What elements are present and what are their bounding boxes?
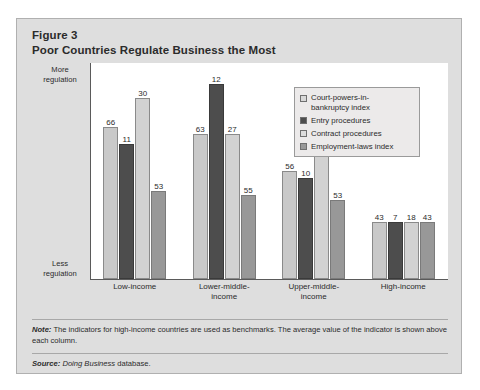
bar-value-label: 43 bbox=[423, 213, 432, 222]
bar-slot: 66 bbox=[103, 63, 118, 279]
bar-value-label: 53 bbox=[154, 182, 163, 191]
legend-item[interactable]: Employment-laws index bbox=[300, 142, 413, 152]
bar[interactable]: 56 bbox=[282, 171, 297, 279]
category-label: Low-income bbox=[90, 282, 180, 302]
bar[interactable]: 11 bbox=[119, 144, 134, 279]
footer-divider-top bbox=[32, 319, 448, 320]
legend-item[interactable]: Entry procedures bbox=[300, 116, 413, 126]
axis-caption-less-line2: regulation bbox=[32, 269, 88, 279]
bar-slot: 43 bbox=[420, 63, 435, 279]
bar-value-label: 27 bbox=[228, 125, 237, 134]
bar-value-label: 63 bbox=[196, 125, 205, 134]
bar-slot: 12 bbox=[209, 63, 224, 279]
bar-value-label: 11 bbox=[123, 135, 131, 144]
category-label: Lower-middle-income bbox=[180, 282, 270, 302]
legend-item[interactable]: Court-powers-in-bankruptcy index bbox=[300, 93, 413, 112]
legend-label: Entry procedures bbox=[311, 116, 370, 126]
legend-item[interactable]: Contract procedures bbox=[300, 129, 413, 139]
bar-value-label: 55 bbox=[244, 186, 253, 195]
legend-label: Court-powers-in-bankruptcy index bbox=[311, 93, 370, 112]
legend-label-line: Employment-laws index bbox=[311, 142, 393, 152]
bar-value-label: 10 bbox=[301, 169, 310, 178]
axis-caption-more-line1: More bbox=[32, 65, 88, 75]
category-label-line: Low-income bbox=[90, 282, 180, 292]
footer-divider-bottom bbox=[32, 353, 448, 354]
note-text: The indicators for high-income countries… bbox=[32, 325, 447, 345]
bar-value-label: 18 bbox=[407, 213, 416, 222]
figure-note: Note: The indicators for high-income cou… bbox=[32, 325, 448, 346]
bar[interactable]: 63 bbox=[193, 134, 208, 279]
bar-slot: 53 bbox=[151, 63, 166, 279]
figure-source: Source: Doing Business database. bbox=[32, 359, 448, 370]
category-label-line: High-income bbox=[359, 282, 449, 292]
bar[interactable]: 43 bbox=[372, 222, 387, 279]
bar-value-label: 12 bbox=[212, 75, 221, 84]
figure-panel: Figure 3 Poor Countries Regulate Busines… bbox=[16, 18, 462, 374]
bar-value-label: 7 bbox=[393, 213, 397, 222]
bar[interactable]: 30 bbox=[135, 98, 150, 279]
note-lead: Note: bbox=[32, 325, 51, 334]
legend-label: Contract procedures bbox=[311, 129, 382, 139]
bar-value-label: 30 bbox=[138, 89, 147, 98]
bar-group: 66113053 bbox=[90, 63, 180, 279]
legend-label-line: bankruptcy index bbox=[311, 103, 370, 113]
bar-slot: 11 bbox=[119, 63, 134, 279]
bar-slot: 27 bbox=[225, 63, 240, 279]
bar-group: 63122755 bbox=[180, 63, 270, 279]
bar-value-label: 43 bbox=[375, 213, 384, 222]
axis-caption-less: Less regulation bbox=[32, 259, 88, 278]
legend-swatch-icon bbox=[300, 143, 307, 150]
legend-label-line: Court-powers-in- bbox=[311, 93, 370, 103]
legend-swatch-icon bbox=[300, 117, 307, 124]
bar-slot: 55 bbox=[241, 63, 256, 279]
bar[interactable]: 10 bbox=[298, 178, 313, 279]
chart-region: More regulation Less regulation 66113053… bbox=[32, 63, 448, 311]
x-axis-line bbox=[90, 279, 448, 280]
title-block: Figure 3 Poor Countries Regulate Busines… bbox=[32, 28, 442, 58]
legend-swatch-icon bbox=[300, 130, 307, 137]
bar[interactable]: 18 bbox=[404, 222, 419, 279]
legend-label-line: Contract procedures bbox=[311, 129, 382, 139]
bar[interactable]: 53 bbox=[151, 191, 166, 279]
legend-label-line: Entry procedures bbox=[311, 116, 370, 126]
figure-label: Figure 3 bbox=[32, 28, 442, 43]
bar-slot: 63 bbox=[193, 63, 208, 279]
category-label-line: income bbox=[269, 292, 359, 302]
category-label-line: Lower-middle- bbox=[180, 282, 270, 292]
bar[interactable]: 53 bbox=[330, 200, 345, 279]
bar[interactable]: 27 bbox=[225, 134, 240, 279]
legend-label: Employment-laws index bbox=[311, 142, 393, 152]
bar[interactable]: 55 bbox=[241, 195, 256, 279]
source-lead: Source: bbox=[32, 359, 60, 368]
bar[interactable]: 66 bbox=[103, 127, 118, 279]
axis-caption-more: More regulation bbox=[32, 65, 88, 84]
bar-slot: 30 bbox=[135, 63, 150, 279]
category-label: Upper-middle-income bbox=[269, 282, 359, 302]
source-publication: Doing Business bbox=[60, 359, 115, 368]
legend-swatch-icon bbox=[300, 95, 307, 102]
bar[interactable]: 12 bbox=[209, 84, 224, 279]
category-label-line: income bbox=[180, 292, 270, 302]
category-labels: Low-incomeLower-middle-incomeUpper-middl… bbox=[90, 282, 448, 302]
bar[interactable]: 43 bbox=[420, 222, 435, 279]
axis-caption-more-line2: regulation bbox=[32, 75, 88, 85]
category-label-line: Upper-middle- bbox=[269, 282, 359, 292]
category-label: High-income bbox=[359, 282, 449, 302]
chart-legend: Court-powers-in-bankruptcy indexEntry pr… bbox=[294, 87, 420, 157]
bar-value-label: 56 bbox=[285, 162, 294, 171]
bar[interactable]: 7 bbox=[388, 222, 403, 279]
bar-value-label: 53 bbox=[333, 191, 342, 200]
bar-value-label: 66 bbox=[106, 118, 115, 127]
figure-title: Poor Countries Regulate Business the Mos… bbox=[32, 43, 442, 58]
axis-caption-less-line1: Less bbox=[32, 259, 88, 269]
source-rest: database. bbox=[115, 359, 150, 368]
